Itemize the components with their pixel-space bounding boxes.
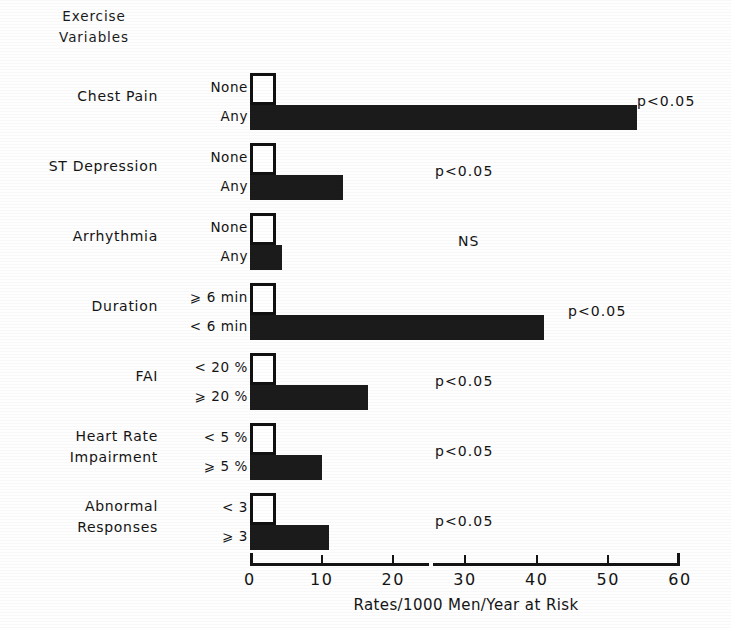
bar-category-label: ⩾ 6 min xyxy=(162,289,248,305)
bar-arrhythmia-exposed xyxy=(250,245,282,270)
group-label-line-1: ST Depression xyxy=(49,158,158,174)
axis-line-segment xyxy=(433,563,680,566)
bar-category-label: < 6 min xyxy=(162,318,248,334)
bar-chest-pain-exposed xyxy=(250,105,637,130)
group-label-duration: Duration xyxy=(10,296,158,317)
bar-duration-exposed xyxy=(250,315,544,340)
bar-category-label: < 3 xyxy=(162,499,248,515)
x-axis-tick-label: 60 xyxy=(660,570,700,589)
x-axis-tick-label: 50 xyxy=(588,570,628,589)
column-header-exercise-variables: Exercise Variables xyxy=(34,6,154,48)
bar-category-label: None xyxy=(162,219,248,235)
bar-category-label: < 20 % xyxy=(162,359,248,375)
group-label-arrhythmia: Arrhythmia xyxy=(10,226,158,247)
bar-category-label: ⩾ 20 % xyxy=(162,388,248,404)
group-label-line-2: Impairment xyxy=(10,447,158,468)
bar-category-label: None xyxy=(162,149,248,165)
exercise-variables-bar-chart: Exercise Variables Chest PainNoneAnyp<0.… xyxy=(0,0,731,628)
column-header-line-2: Variables xyxy=(34,27,154,48)
bar-category-label: None xyxy=(162,79,248,95)
x-axis-title: Rates/1000 Men/Year at Risk xyxy=(250,596,682,614)
axis-line-segment xyxy=(250,563,429,566)
group-label-heart-rate-impairment: Heart RateImpairment xyxy=(10,426,158,468)
bar-abnormal-responses-exposed xyxy=(250,525,329,550)
significance-label-arrhythmia: NS xyxy=(458,233,480,249)
group-label-st-depression: ST Depression xyxy=(10,156,158,177)
group-label-line-1: Chest Pain xyxy=(77,88,158,104)
bar-category-label: Any xyxy=(162,178,248,194)
bar-duration-reference xyxy=(250,283,276,315)
x-axis-tick xyxy=(464,555,466,565)
x-axis-tick xyxy=(250,553,253,566)
x-axis-tick xyxy=(677,553,680,566)
x-axis-tick-label: 30 xyxy=(445,570,485,589)
bar-heart-rate-impairment-reference xyxy=(250,423,276,455)
bar-category-label: ⩾ 5 % xyxy=(162,458,248,474)
bar-chest-pain-reference xyxy=(250,73,276,105)
bar-category-label: Any xyxy=(162,108,248,124)
significance-label-chest-pain: p<0.05 xyxy=(637,93,695,109)
x-axis-tick xyxy=(392,555,394,565)
group-label-chest-pain: Chest Pain xyxy=(10,86,158,107)
bar-abnormal-responses-reference xyxy=(250,493,276,525)
bar-heart-rate-impairment-exposed xyxy=(250,455,322,480)
group-label-line-1: Arrhythmia xyxy=(73,228,158,244)
group-label-line-1: Abnormal xyxy=(85,498,158,514)
x-axis-tick-label: 40 xyxy=(517,570,557,589)
column-header-line-1: Exercise xyxy=(34,6,154,27)
significance-label-abnormal-responses: p<0.05 xyxy=(435,513,493,529)
bar-category-label: < 5 % xyxy=(162,429,248,445)
group-label-line-1: Heart Rate xyxy=(75,428,158,444)
bar-fai-exposed xyxy=(250,385,368,410)
significance-label-st-depression: p<0.05 xyxy=(435,163,493,179)
group-label-line-2: Responses xyxy=(10,517,158,538)
group-label-line-1: FAI xyxy=(135,368,158,384)
bar-category-label: Any xyxy=(162,248,248,264)
group-label-fai: FAI xyxy=(10,366,158,387)
bar-st-depression-exposed xyxy=(250,175,343,200)
x-axis-tick xyxy=(607,555,609,565)
significance-label-duration: p<0.05 xyxy=(568,303,626,319)
x-axis-tick xyxy=(321,555,323,565)
x-axis-tick-label: 10 xyxy=(302,570,342,589)
group-label-line-1: Duration xyxy=(92,298,158,314)
bar-category-label: ⩾ 3 xyxy=(162,528,248,544)
bar-arrhythmia-reference xyxy=(250,213,276,245)
significance-label-fai: p<0.05 xyxy=(435,373,493,389)
bar-st-depression-reference xyxy=(250,143,276,175)
x-axis-tick-label: 20 xyxy=(373,570,413,589)
group-label-abnormal-responses: AbnormalResponses xyxy=(10,496,158,538)
significance-label-heart-rate-impairment: p<0.05 xyxy=(435,443,493,459)
x-axis-tick xyxy=(536,555,538,565)
bar-fai-reference xyxy=(250,353,276,385)
x-axis-tick-label: 0 xyxy=(230,570,270,589)
